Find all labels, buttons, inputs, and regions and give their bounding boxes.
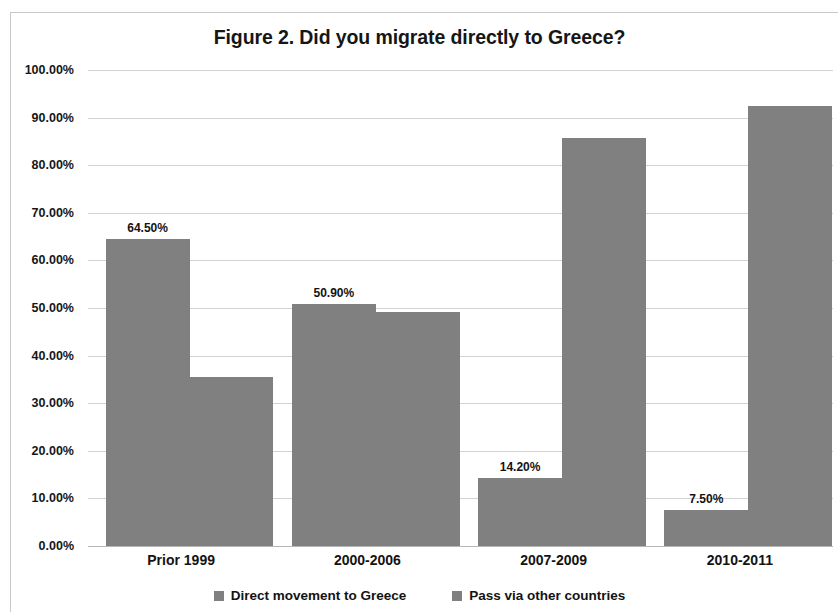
bar-value-label: 7.50% bbox=[689, 492, 723, 506]
bar-value-label: 64.50% bbox=[127, 221, 168, 235]
bar-group: 50.90% bbox=[274, 70, 460, 546]
y-axis-tick-label: 20.00% bbox=[32, 444, 74, 458]
bar[interactable] bbox=[748, 106, 832, 546]
bar[interactable]: 50.90% bbox=[292, 304, 376, 546]
chart-title: Figure 2. Did you migrate directly to Gr… bbox=[0, 26, 839, 49]
bar-pair: 14.20% bbox=[478, 70, 646, 546]
bar-groups: 64.50%50.90%14.20%7.50% bbox=[88, 70, 833, 546]
bar[interactable]: 14.20% bbox=[478, 478, 562, 546]
y-axis-tick-label: 30.00% bbox=[32, 396, 74, 410]
legend-swatch-icon bbox=[452, 591, 462, 601]
legend-label: Direct movement to Greece bbox=[231, 588, 407, 603]
x-axis-category-label: Prior 1999 bbox=[88, 552, 274, 568]
bar-group: 14.20% bbox=[461, 70, 647, 546]
gridline bbox=[88, 546, 833, 547]
bar-pair: 50.90% bbox=[292, 70, 460, 546]
bar-group: 7.50% bbox=[647, 70, 833, 546]
y-axis-tick-label: 100.00% bbox=[25, 63, 74, 77]
bar-value-label: 50.90% bbox=[313, 286, 354, 300]
y-axis-tick-label: 10.00% bbox=[32, 491, 74, 505]
legend-item[interactable]: Direct movement to Greece bbox=[214, 588, 407, 603]
plot-area: 0.00%10.00%20.00%30.00%40.00%50.00%60.00… bbox=[88, 70, 833, 546]
y-axis-tick-label: 0.00% bbox=[39, 539, 74, 553]
figure-container: Figure 2. Did you migrate directly to Gr… bbox=[0, 0, 839, 614]
chart-legend: Direct movement to GreecePass via other … bbox=[0, 588, 839, 603]
x-axis-category-label: 2007-2009 bbox=[461, 552, 647, 568]
y-axis-tick-label: 60.00% bbox=[32, 253, 74, 267]
bar[interactable] bbox=[376, 312, 460, 546]
x-axis-category-labels: Prior 19992000-20062007-20092010-2011 bbox=[88, 552, 833, 568]
bar[interactable] bbox=[190, 377, 274, 546]
bar-pair: 7.50% bbox=[664, 70, 832, 546]
bar-group: 64.50% bbox=[88, 70, 274, 546]
x-axis-category-label: 2010-2011 bbox=[647, 552, 833, 568]
legend-label: Pass via other countries bbox=[469, 588, 625, 603]
y-axis-tick-label: 50.00% bbox=[32, 301, 74, 315]
legend-swatch-icon bbox=[214, 591, 224, 601]
bar[interactable]: 7.50% bbox=[664, 510, 748, 546]
bar[interactable]: 64.50% bbox=[106, 239, 190, 546]
y-axis-tick-label: 90.00% bbox=[32, 111, 74, 125]
bar-value-label: 14.20% bbox=[500, 460, 541, 474]
bar[interactable] bbox=[562, 138, 646, 546]
y-axis-tick-label: 40.00% bbox=[32, 349, 74, 363]
y-axis-tick-label: 70.00% bbox=[32, 206, 74, 220]
legend-item[interactable]: Pass via other countries bbox=[452, 588, 625, 603]
x-axis-category-label: 2000-2006 bbox=[274, 552, 460, 568]
bar-pair: 64.50% bbox=[106, 70, 274, 546]
y-axis-tick-label: 80.00% bbox=[32, 158, 74, 172]
